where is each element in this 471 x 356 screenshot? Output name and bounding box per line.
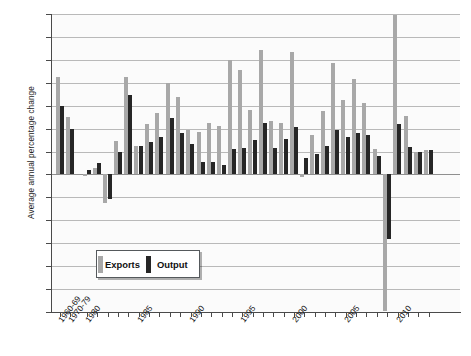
y-tick-mark-0	[46, 174, 52, 175]
bar-group	[300, 14, 310, 312]
x-tick-mark-1988	[170, 312, 171, 317]
y-tick-mark-2	[46, 152, 52, 153]
bar-output-1994	[232, 149, 236, 174]
y-tick-mark-4	[46, 129, 52, 130]
y-axis-line	[51, 14, 52, 313]
bar-group	[424, 14, 434, 312]
bar-output-1985	[139, 146, 143, 175]
bar-group	[290, 14, 300, 312]
bar-output-1980	[87, 170, 91, 175]
x-tick-mark-2012	[418, 312, 419, 317]
x-tick-mark-1989	[180, 312, 181, 317]
bar-group	[228, 14, 238, 312]
bar-output-2003	[325, 146, 329, 175]
bar-output-2006	[356, 133, 360, 175]
bar-output-2010	[397, 124, 401, 174]
y-tick-mark--10	[46, 289, 52, 290]
bar-output-1991	[201, 162, 205, 175]
x-tick-mark-1984	[128, 312, 129, 317]
bar-group	[393, 14, 403, 312]
x-tick-mark-1992	[211, 312, 212, 317]
bar-output-1997	[263, 123, 267, 175]
x-tick-mark-1998	[273, 312, 274, 317]
bar-group	[321, 14, 331, 312]
bar-output-1983	[118, 152, 122, 175]
x-tick-mark-2008	[377, 312, 378, 317]
bar-output-2009	[387, 174, 391, 238]
bar-output-1990	[190, 144, 194, 175]
x-tick-mark-1994	[232, 312, 233, 317]
x-tick-mark-1993	[222, 312, 223, 317]
bar-group	[362, 14, 372, 312]
bar-output-2004	[335, 130, 339, 175]
bar-output-1988	[170, 118, 174, 174]
bar-group	[341, 14, 351, 312]
x-tick-mark-2009	[387, 312, 388, 317]
bar-group	[279, 14, 289, 312]
bar-output-1981	[97, 163, 101, 174]
bar-group	[310, 14, 320, 312]
bar-output-1999	[284, 139, 288, 175]
bar-output-1995	[242, 148, 246, 174]
bar-group	[207, 14, 217, 312]
bar-output-2000	[294, 127, 298, 174]
y-tick-mark--2	[46, 197, 52, 198]
bar-exports-1980	[83, 174, 87, 175]
x-tick-mark-1983	[118, 312, 119, 317]
bar-output-1993	[222, 165, 226, 174]
bar-output-1984	[128, 95, 132, 174]
y-tick-mark--12	[46, 312, 52, 313]
x-tick-mark-2003	[325, 312, 326, 317]
x-tick-mark-1997	[263, 312, 264, 317]
bar-group	[259, 14, 269, 312]
bar-output-1982	[108, 174, 112, 198]
y-tick-mark-6	[46, 106, 52, 107]
legend-swatch-output	[146, 256, 151, 273]
bar-group	[352, 14, 362, 312]
bar-group	[83, 14, 93, 312]
y-tick-mark--4	[46, 220, 52, 221]
x-tick-mark-2004	[335, 312, 336, 317]
bar-exports-2001	[300, 174, 304, 176]
bar-group	[238, 14, 248, 312]
bar-group	[373, 14, 383, 312]
bar-output-1987	[159, 137, 163, 175]
bar-group	[404, 14, 414, 312]
bar-group	[414, 14, 424, 312]
bar-output-2011	[408, 147, 412, 175]
x-tick-mark-1987	[159, 312, 160, 317]
legend-swatch-exports	[98, 256, 103, 273]
y-tick-mark--6	[46, 243, 52, 244]
x-tick-mark-1982	[108, 312, 109, 317]
x-tick-mark-2013	[429, 312, 430, 317]
bar-output-2012	[418, 152, 422, 175]
bar-group	[248, 14, 258, 312]
chart-root: Average annual percentage change Exports…	[0, 0, 471, 356]
bar-output-1989	[180, 133, 184, 174]
bar-output-1960-69	[60, 106, 64, 175]
x-tick-mark-2002	[315, 312, 316, 317]
bar-group	[217, 14, 227, 312]
y-tick-mark-10	[46, 60, 52, 61]
bar-group	[383, 14, 393, 312]
bar-output-2008	[377, 156, 381, 174]
bar-group	[269, 14, 279, 312]
y-tick-mark-12	[46, 37, 52, 38]
bar-group	[66, 14, 76, 312]
x-tick-mark-1999	[284, 312, 285, 317]
bar-output-2001	[304, 158, 308, 174]
bar-output-2013	[429, 150, 433, 174]
bar-output-1998	[273, 148, 277, 175]
bar-output-1992	[211, 162, 215, 175]
legend-label-output: Output	[157, 259, 188, 270]
y-tick-mark-8	[46, 83, 52, 84]
bar-group	[56, 14, 66, 312]
bar-output-2007	[366, 135, 370, 174]
bar-output-1986	[149, 142, 153, 174]
y-tick-mark--8	[46, 266, 52, 267]
bar-output-2002	[315, 154, 319, 175]
bar-output-1970-79	[70, 129, 74, 175]
chart-legend: Exports Output	[96, 250, 200, 278]
bar-group	[331, 14, 341, 312]
legend-label-exports: Exports	[105, 259, 140, 270]
